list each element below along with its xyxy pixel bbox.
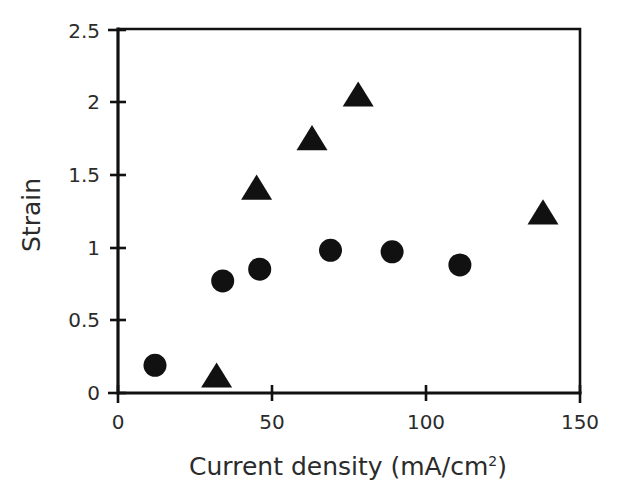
plot-frame <box>118 29 580 393</box>
x-ticklabel-50: 50 <box>259 410 284 434</box>
y-ticklabel-2: 2 <box>87 90 100 114</box>
y-axis-tick-labels: 0 0.5 1 1.5 2 2.5 <box>68 19 100 405</box>
y-axis-title: Strain <box>17 178 46 252</box>
data-point-circle <box>248 258 271 281</box>
x-axis-title-tail: ) <box>497 452 507 481</box>
frame-top-right-border <box>118 29 580 393</box>
data-point-triangle <box>201 362 232 387</box>
data-point-circle <box>144 354 167 377</box>
data-point-circle <box>381 240 404 263</box>
x-axis-tick-labels: 0 50 100 150 <box>112 410 599 434</box>
data-point-triangle <box>343 81 374 106</box>
x-ticklabel-100: 100 <box>407 410 445 434</box>
data-markers <box>144 81 559 387</box>
y-ticklabel-0p5: 0.5 <box>68 308 100 332</box>
x-ticklabel-0: 0 <box>112 410 125 434</box>
data-point-circle <box>448 253 471 276</box>
axis-left-bottom <box>118 29 580 393</box>
y-ticklabel-1: 1 <box>87 236 100 260</box>
chart-figure: 0 0.5 1 1.5 2 2.5 0 50 100 150 Current d… <box>0 0 644 491</box>
x-ticklabel-150: 150 <box>561 410 599 434</box>
data-point-triangle <box>297 125 328 150</box>
y-ticklabel-1p5: 1.5 <box>68 163 100 187</box>
x-axis-title: Current density (mA/cm2) <box>189 452 507 481</box>
scatter-plot-svg: 0 0.5 1 1.5 2 2.5 0 50 100 150 Current d… <box>0 0 644 491</box>
data-point-triangle <box>241 175 272 200</box>
y-ticklabel-2p5: 2.5 <box>68 19 100 43</box>
y-ticklabel-0: 0 <box>87 381 100 405</box>
data-point-circle <box>211 269 234 292</box>
data-point-circle <box>319 239 342 262</box>
x-axis-title-superscript: 2 <box>488 453 497 469</box>
data-point-triangle <box>528 199 559 224</box>
x-axis-title-main: Current density (mA/cm <box>189 452 488 481</box>
